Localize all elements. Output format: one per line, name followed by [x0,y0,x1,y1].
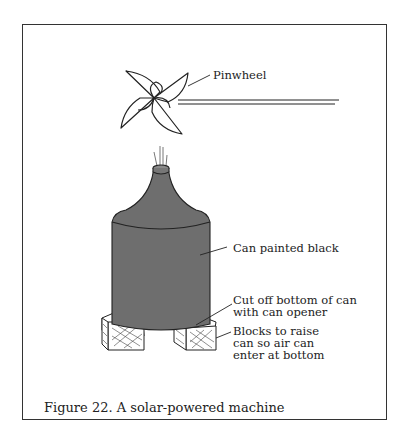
can-label: Can painted black [233,242,339,254]
pinwheel-icon [121,71,188,134]
can-painted-black [112,165,210,330]
solar-machine-illustration [0,0,410,445]
pinwheel-leader [188,75,210,86]
pinwheel-label: Pinwheel [213,69,266,81]
blocks-label-line3: enter at bottom [233,349,324,361]
figure-caption: Figure 22. A solar-powered machine [44,400,285,415]
pinwheel-stick [178,100,339,104]
cut-bottom-label-line2: with can opener [233,306,327,318]
heat-wisps [154,146,167,166]
